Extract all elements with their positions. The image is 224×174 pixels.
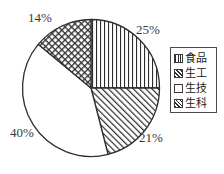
legend-item-shipin: 食品 — [174, 51, 214, 66]
legend-item-shenggong: 生工 — [174, 66, 214, 81]
legend-swatch-blank-icon — [174, 84, 183, 93]
pie-label-shengji-percent: 40% — [10, 126, 34, 139]
legend-swatch-vertical-lines-icon — [174, 54, 183, 63]
pie-chart-figure: 25% 21% 40% 14% 食品 生工 生技 生科 — [0, 0, 224, 174]
pie-label-shipin-percent: 25% — [136, 23, 160, 36]
legend-item-shengke: 生科 — [174, 96, 214, 111]
legend-item-shengji: 生技 — [174, 81, 214, 96]
legend-swatch-diagonal-hatch-icon — [174, 69, 183, 78]
legend-label-shipin: 食品 — [185, 53, 207, 64]
legend-swatch-cross-hatch-icon — [174, 99, 183, 108]
pie-label-shengke-percent: 14% — [28, 11, 52, 24]
chart-legend: 食品 生工 生技 生科 — [170, 47, 217, 113]
pie-label-shenggong-percent: 21% — [139, 131, 163, 144]
legend-label-shengji: 生技 — [185, 83, 207, 94]
legend-label-shengke: 生科 — [185, 98, 207, 109]
legend-label-shenggong: 生工 — [185, 68, 207, 79]
